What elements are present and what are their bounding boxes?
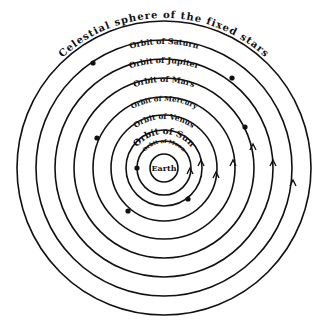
planet-venus (125, 208, 130, 213)
planet-jupiter (229, 75, 234, 80)
planet-mercury-right (242, 124, 247, 129)
label-orbit-mercury: Orbit of Mercury (129, 94, 200, 111)
planet-moon (134, 165, 139, 170)
label-orbit-mars: Orbit of Mars (132, 74, 197, 89)
label-orbit-sun: Orbit of Sun (131, 126, 197, 149)
earth-label: Earth (151, 163, 176, 173)
label-celestial-sphere: Celestial sphere of the fixed stars (56, 9, 272, 59)
label-orbit-saturn: Orbit of Saturn (128, 36, 200, 51)
planet-saturn (90, 60, 95, 65)
geocentric-diagram: Earth Orbit of Moon Orbit of Sun Orbit o… (0, 0, 326, 329)
planet-sun (185, 196, 190, 201)
planet-mercury-left (94, 135, 99, 140)
label-orbit-jupiter: Orbit of Jupiter (128, 55, 202, 71)
